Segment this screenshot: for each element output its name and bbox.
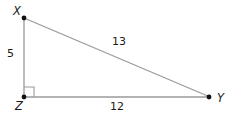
vertex-y-dot bbox=[207, 95, 212, 100]
side-xy-hypotenuse-line bbox=[24, 18, 210, 97]
side-xy-length-label: 13 bbox=[112, 35, 126, 48]
triangle-canvas: X Z Y 5 13 12 bbox=[0, 0, 234, 114]
vertex-z-label: Z bbox=[14, 99, 24, 113]
vertex-x-dot bbox=[22, 16, 27, 21]
right-triangle-figure: X Z Y 5 13 12 bbox=[0, 0, 234, 114]
vertex-y-label: Y bbox=[217, 91, 225, 105]
side-xz-length-label: 5 bbox=[7, 47, 14, 60]
vertex-x-label: X bbox=[12, 4, 22, 18]
side-zy-length-label: 12 bbox=[110, 100, 124, 113]
